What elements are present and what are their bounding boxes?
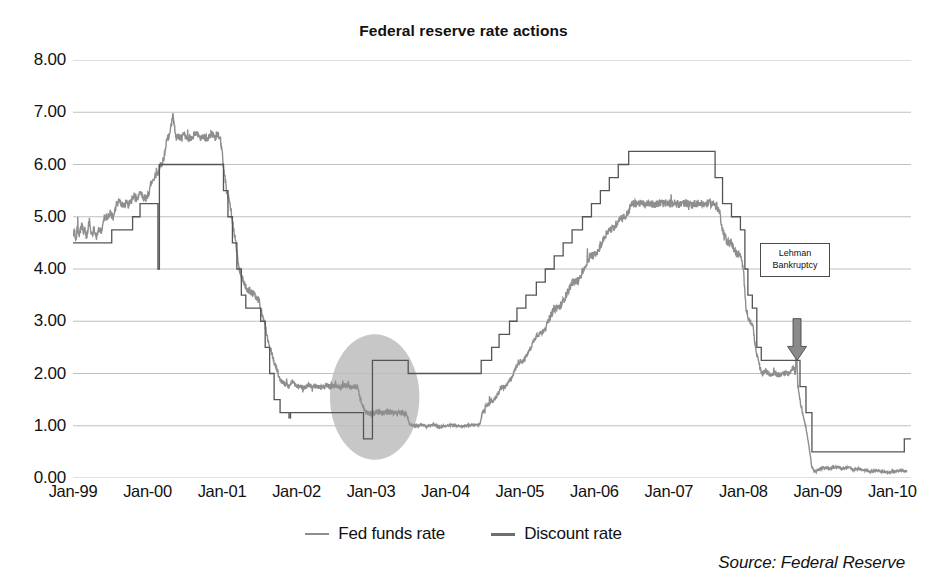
x-axis-tick-label: Jan-02 xyxy=(272,482,321,501)
y-axis-tick-label: 2.00 xyxy=(34,364,66,384)
x-axis-tick-label: Jan-07 xyxy=(645,482,694,501)
x-axis-tick-label: Jan-06 xyxy=(570,482,619,501)
source-note: Source: Federal Reserve xyxy=(718,553,905,573)
x-axis-tick-label: Jan-08 xyxy=(719,482,768,501)
y-axis-tick-label: 3.00 xyxy=(34,311,66,331)
chart-title: Federal reserve rate actions xyxy=(0,22,927,40)
annotation-line-1: Lehman xyxy=(764,248,826,260)
annotation-line-2: Bankruptcy xyxy=(764,260,826,272)
x-axis-tick-label: Jan-01 xyxy=(198,482,247,501)
lehman-bankruptcy-annotation: Lehman Bankruptcy xyxy=(760,243,830,277)
y-axis-tick-label: 4.00 xyxy=(34,259,66,279)
x-axis-tick-label: Jan-03 xyxy=(347,482,396,501)
y-axis-tick-label: 1.00 xyxy=(34,416,66,436)
legend-swatch-icon xyxy=(305,533,329,535)
legend-swatch-icon xyxy=(491,533,515,536)
y-axis-tick-label: 5.00 xyxy=(34,207,66,227)
x-axis-tick-label: Jan-00 xyxy=(123,482,172,501)
legend-item-fed-funds-rate[interactable]: Fed funds rate xyxy=(305,524,445,544)
legend-item-discount-rate[interactable]: Discount rate xyxy=(491,524,622,544)
x-axis-tick-label: Jan-10 xyxy=(868,482,917,501)
x-axis-tick-label: Jan-05 xyxy=(496,482,545,501)
series-line-fed-funds-rate xyxy=(73,113,907,473)
series-line-discount-rate xyxy=(73,151,911,451)
y-axis-tick-label: 6.00 xyxy=(34,155,66,175)
x-axis-tick-label: Jan-09 xyxy=(794,482,843,501)
annotation-arrow-down-icon xyxy=(788,319,807,361)
x-axis: Jan-99Jan-00Jan-01Jan-02Jan-03Jan-04Jan-… xyxy=(73,482,911,512)
highlight-ellipse xyxy=(330,334,419,459)
chart-legend: Fed funds rateDiscount rate xyxy=(0,524,927,544)
x-axis-tick-label: Jan-99 xyxy=(49,482,98,501)
legend-label: Fed funds rate xyxy=(338,524,445,544)
y-axis-tick-label: 8.00 xyxy=(34,50,66,70)
y-axis: 8.007.006.005.004.003.002.001.000.00 xyxy=(0,60,66,478)
legend-label: Discount rate xyxy=(524,524,622,544)
y-axis-tick-label: 7.00 xyxy=(34,102,66,122)
chart-root: Federal reserve rate actions 8.007.006.0… xyxy=(0,0,927,585)
x-axis-tick-label: Jan-04 xyxy=(421,482,470,501)
